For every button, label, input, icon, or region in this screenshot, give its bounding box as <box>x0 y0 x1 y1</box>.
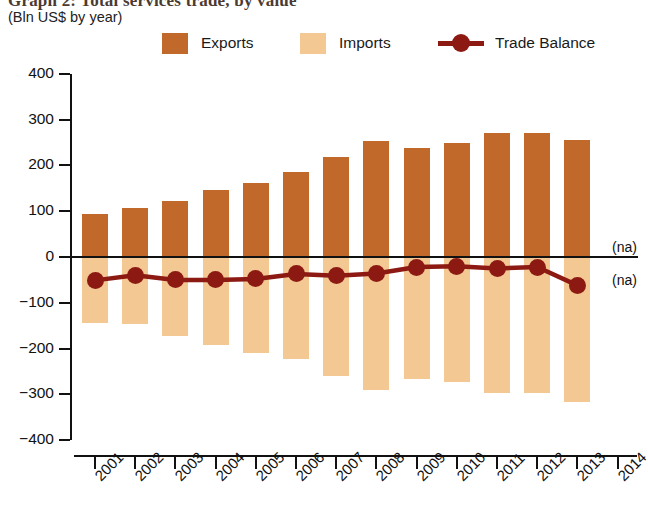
trade-balance-point <box>127 267 144 284</box>
x-tick-label: 2012 <box>533 448 569 484</box>
y-tick-label: 100 <box>0 201 54 219</box>
trade-balance-point <box>489 260 506 277</box>
x-tick-label: 2009 <box>413 448 449 484</box>
y-tick-label: 0 <box>0 247 54 265</box>
x-tick-label: 2006 <box>292 448 328 484</box>
exports-bar <box>564 140 590 257</box>
y-tick <box>59 302 70 304</box>
y-tick-label: 300 <box>0 110 54 128</box>
exports-bar <box>243 183 269 257</box>
y-tick-label: −200 <box>0 339 54 357</box>
trade-balance-point <box>288 265 305 282</box>
x-tick-label: 2013 <box>573 448 609 484</box>
y-tick <box>59 393 70 395</box>
exports-bar <box>484 133 510 257</box>
trade-balance-point <box>529 259 546 276</box>
exports-bar <box>122 208 148 257</box>
y-tick <box>59 439 70 441</box>
exports-bar <box>404 148 430 257</box>
trade-balance-point <box>87 272 104 289</box>
exports-bar <box>444 143 470 257</box>
imports-bar <box>203 257 229 345</box>
x-tick-label: 2008 <box>372 448 408 484</box>
services-trade-chart: Graph 2: Total services trade, by value … <box>0 0 648 510</box>
trade-balance-point <box>569 277 586 294</box>
y-tick-label: −100 <box>0 293 54 311</box>
x-tick-label: 2002 <box>131 448 167 484</box>
imports-bar <box>82 257 108 323</box>
trade-balance-point <box>328 267 345 284</box>
y-tick <box>59 164 70 166</box>
y-tick <box>59 348 70 350</box>
x-tick-label: 2004 <box>212 448 248 484</box>
trade-balance-point <box>448 258 465 275</box>
zero-axis-line <box>70 256 638 258</box>
exports-bar <box>524 133 550 257</box>
y-tick <box>59 210 70 212</box>
imports-bar <box>524 257 550 393</box>
exports-bar <box>162 201 188 257</box>
y-tick-label: −300 <box>0 384 54 402</box>
exports-bar <box>323 157 349 257</box>
y-tick-label: 200 <box>0 155 54 173</box>
exports-bar <box>203 190 229 257</box>
na-annotation: (na) <box>612 239 637 255</box>
x-tick-label: 2005 <box>252 448 288 484</box>
y-tick <box>59 256 70 258</box>
x-tick-label: 2007 <box>332 448 368 484</box>
x-tick-label: 2003 <box>171 448 207 484</box>
exports-bar <box>283 172 309 257</box>
y-tick-label: −400 <box>0 430 54 448</box>
imports-bar <box>444 257 470 382</box>
trade-balance-point <box>368 265 385 282</box>
x-tick-label: 2014 <box>614 448 648 484</box>
y-tick <box>59 73 70 75</box>
plot-area: 4003002001000−100−200−300−40020012002200… <box>0 0 648 510</box>
imports-bar <box>484 257 510 393</box>
exports-bar <box>363 141 389 257</box>
imports-bar <box>162 257 188 336</box>
y-tick <box>59 119 70 121</box>
x-tick-label: 2001 <box>91 448 127 484</box>
x-tick-label: 2010 <box>453 448 489 484</box>
exports-bar <box>82 214 108 257</box>
trade-balance-point <box>408 259 425 276</box>
y-tick-label: 400 <box>0 64 54 82</box>
na-annotation: (na) <box>612 272 637 288</box>
